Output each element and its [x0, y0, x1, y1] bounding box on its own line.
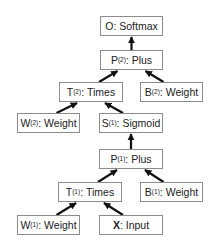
node-superscript: (1) — [30, 221, 38, 228]
node-symbol: S — [102, 117, 109, 129]
node-superscript: (2) — [73, 88, 81, 95]
edge-arrow-s1-to-t2 — [105, 103, 123, 113]
node-o: O: Softmax — [100, 16, 163, 36]
node-operation: Weight — [44, 219, 77, 231]
edge-arrow-w1-to-t1 — [57, 203, 77, 215]
node-s1: S(1): Sigmoid — [99, 113, 163, 133]
node-operation: Times — [87, 86, 115, 98]
node-superscript: (1) — [152, 188, 160, 195]
node-operation: Plus — [132, 54, 152, 66]
node-x: X: Input — [99, 215, 163, 235]
node-t2: T(2): Times — [59, 82, 123, 102]
node-operation: Plus — [131, 153, 151, 165]
node-symbol: O — [105, 20, 113, 32]
node-w2: W(2): Weight — [17, 113, 80, 133]
edge-arrow-t2-to-p2 — [99, 71, 118, 82]
node-superscript: (2) — [118, 56, 126, 63]
node-symbol: B — [145, 86, 152, 98]
node-w1: W(1): Weight — [17, 215, 80, 235]
node-b1: B(1): Weight — [140, 182, 203, 202]
node-superscript: (2) — [30, 119, 38, 126]
edge-arrow-w2-to-t2 — [57, 103, 78, 113]
node-operation: Weight — [166, 86, 199, 98]
node-symbol: X — [113, 219, 120, 231]
node-superscript: (2) — [152, 88, 160, 95]
edge-arrow-b1-to-p1 — [145, 170, 164, 182]
node-operation: Softmax — [119, 20, 158, 32]
edge-arrow-x-to-t1 — [104, 203, 123, 215]
node-operation: Weight — [44, 117, 77, 129]
node-p2: P(2): Plus — [100, 50, 163, 70]
node-operation: Sigmoid — [122, 117, 160, 129]
node-t1: T(1): Times — [58, 182, 122, 202]
node-symbol: P — [110, 153, 117, 165]
node-superscript: (1) — [109, 119, 117, 126]
node-symbol: B — [145, 186, 152, 198]
node-symbol: P — [111, 54, 118, 66]
node-p1: P(1): Plus — [99, 149, 163, 169]
edge-arrow-t1-to-p1 — [98, 170, 117, 182]
node-operation: Weight — [166, 186, 199, 198]
edge-arrow-b2-to-p2 — [146, 71, 164, 82]
node-b2: B(2): Weight — [140, 82, 203, 102]
node-symbol: W — [20, 117, 30, 129]
node-operation: Times — [86, 186, 114, 198]
computation-graph-diagram: O: SoftmaxP(2): PlusT(2): TimesB(2): Wei… — [0, 0, 220, 247]
node-superscript: (1) — [72, 188, 80, 195]
node-symbol: W — [20, 219, 30, 231]
node-operation: Input — [126, 219, 149, 231]
node-superscript: (1) — [117, 155, 125, 162]
